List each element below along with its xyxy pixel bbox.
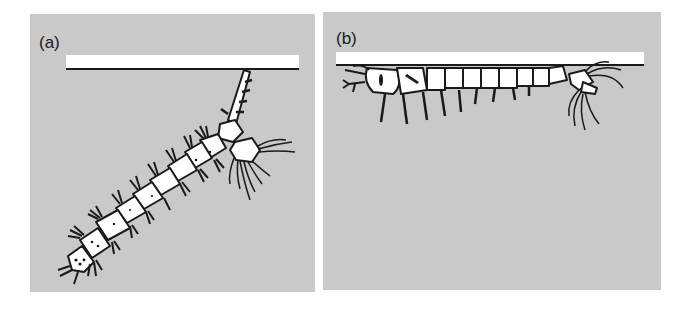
- panel-b: (b): [323, 12, 661, 290]
- larva-horizontal-icon: [323, 12, 661, 290]
- panel-a: (a): [30, 14, 315, 292]
- larva-diagonal-icon: [30, 14, 315, 292]
